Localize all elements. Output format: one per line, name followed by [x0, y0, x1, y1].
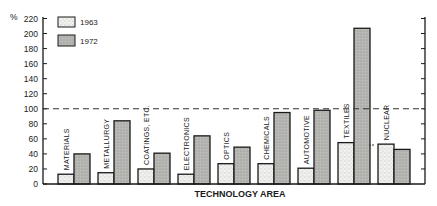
category-label: MATERIALS — [63, 128, 70, 170]
bar-group-metallurgy: METALLURGY — [98, 119, 130, 184]
y-tick-label: 200 — [24, 29, 38, 39]
bar-group-electronics: ELECTRONICS — [178, 117, 210, 184]
bar-1963 — [378, 144, 394, 184]
y-tick-label: 40 — [29, 149, 39, 159]
bar-group-automotive: AUTOMOTIVE — [298, 110, 330, 184]
bar-1972 — [314, 110, 330, 184]
category-label: ELECTRONICS — [183, 117, 190, 170]
bar-1963 — [138, 169, 154, 184]
bar-group-chemicals: CHEMICALS — [258, 113, 290, 184]
legend-label-1963: 1963 — [80, 18, 98, 27]
legend-swatch-1972 — [58, 35, 75, 46]
bar-group-materials: MATERIALS — [58, 128, 90, 184]
y-tick-label: 160 — [24, 59, 38, 69]
bar-1972 — [354, 28, 370, 184]
legend: 1963 1972 — [58, 17, 98, 46]
y-tick-label: 20 — [29, 164, 39, 174]
bar-1972 — [234, 147, 250, 184]
bar-1972 — [154, 153, 170, 184]
y-tick-label: 220 — [24, 14, 38, 24]
legend-label-1972: 1972 — [80, 37, 98, 46]
legend-item-1972: 1972 — [58, 35, 98, 46]
y-tick-label: 0 — [33, 179, 38, 189]
category-label: CHEMICALS — [263, 116, 270, 160]
bar-1972 — [74, 154, 90, 184]
y-tick-label: 120 — [24, 89, 38, 99]
bar-chart: % 020406080100120140160180200220 MATERIA… — [0, 0, 437, 206]
bar-1963 — [98, 173, 114, 184]
category-label: METALLURGY — [103, 119, 110, 169]
bar-group-textiles: TEXTILES — [338, 28, 370, 184]
bar-1972 — [194, 136, 210, 184]
bar-1963 — [178, 174, 194, 184]
y-tick-label: 60 — [29, 134, 39, 144]
y-tick-label: 140 — [24, 74, 38, 84]
bar-1963 — [218, 164, 234, 184]
legend-swatch-1963 — [58, 17, 75, 27]
x-axis-title: TECHNOLOGY AREA — [194, 189, 286, 199]
y-tick-label: 100 — [24, 104, 38, 114]
category-label: AUTOMOTIVE — [303, 115, 310, 164]
bar-group-coatings-etc: COATINGS, ETC. — [138, 105, 170, 184]
category-label: OPTICS — [223, 132, 230, 160]
bar-group-nuclear: NUCLEAR — [378, 105, 410, 184]
category-label: COATINGS, ETC. — [143, 105, 150, 165]
category-label: NUCLEAR — [383, 105, 390, 141]
y-tick-label: 80 — [29, 119, 39, 129]
y-axis-unit-label: % — [10, 12, 18, 22]
y-tick-label: 180 — [24, 44, 38, 54]
legend-item-1963: 1963 — [58, 17, 98, 27]
bar-groups: MATERIALSMETALLURGYCOATINGS, ETC.ELECTRO… — [58, 28, 410, 184]
bar-1963 — [58, 174, 74, 184]
bar-group-optics: OPTICS — [218, 132, 250, 184]
bar-1963 — [338, 143, 354, 184]
bar-1963 — [298, 168, 314, 184]
bar-1972 — [394, 149, 410, 184]
bar-1963 — [258, 164, 274, 184]
bar-1972 — [274, 113, 290, 184]
bar-1972 — [114, 121, 130, 184]
